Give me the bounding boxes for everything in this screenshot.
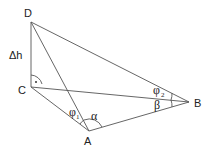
phi1-arc bbox=[80, 120, 84, 124]
phi1-label: φ bbox=[69, 105, 76, 119]
beta-label: β bbox=[154, 98, 160, 112]
segment-da bbox=[31, 22, 89, 131]
alpha-label: α bbox=[91, 109, 98, 123]
right-angle-dot bbox=[35, 81, 37, 83]
point-label-d: D bbox=[24, 7, 32, 19]
phi2-label: φ bbox=[153, 83, 160, 97]
beta-arc bbox=[171, 100, 172, 107]
segment-ca bbox=[31, 87, 89, 131]
phi1-subscript: 1 bbox=[76, 113, 80, 121]
segment-cb bbox=[31, 87, 189, 102]
geometry-diagram: D C A B Δh α φ 1 φ 2 β bbox=[0, 0, 213, 152]
segment-db bbox=[31, 22, 189, 102]
segment-ab bbox=[89, 102, 189, 131]
point-label-a: A bbox=[84, 135, 92, 147]
phi2-subscript: 2 bbox=[161, 91, 165, 99]
point-label-b: B bbox=[194, 97, 201, 109]
point-label-c: C bbox=[18, 84, 26, 96]
phi2-arc bbox=[171, 93, 172, 100]
height-label: Δh bbox=[9, 49, 22, 61]
